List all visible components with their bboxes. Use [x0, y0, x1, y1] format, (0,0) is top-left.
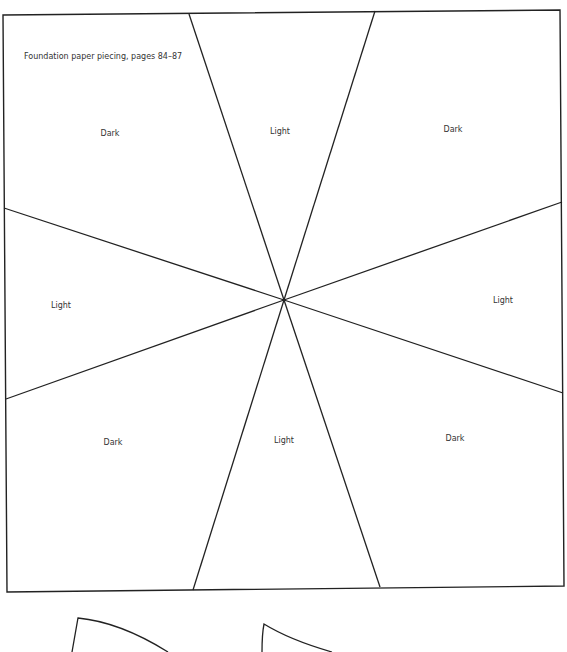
block-spokes — [4, 11, 563, 590]
section-label-top-right: Dark — [444, 125, 463, 134]
spoke-line — [6, 300, 284, 399]
spoke-line — [284, 202, 562, 300]
paper-piecing-diagram — [0, 0, 567, 652]
section-label-top-left: Dark — [101, 129, 120, 138]
section-label-middle-right: Light — [493, 296, 513, 305]
spoke-line — [189, 14, 284, 300]
spoke-line — [284, 300, 380, 587]
curved-template-1 — [72, 618, 168, 652]
spoke-line — [284, 300, 563, 393]
spoke-line — [4, 208, 284, 300]
section-label-bottom-left: Dark — [104, 438, 123, 447]
section-label-bottom-right: Dark — [446, 434, 465, 443]
spoke-line — [284, 11, 375, 300]
section-label-bottom-center: Light — [274, 436, 294, 445]
section-label-top-center: Light — [270, 127, 290, 136]
curved-template-2 — [262, 624, 332, 652]
section-label-middle-left: Light — [51, 301, 71, 310]
spoke-line — [193, 300, 284, 590]
document-caption: Foundation paper piecing, pages 84–87 — [24, 52, 182, 61]
